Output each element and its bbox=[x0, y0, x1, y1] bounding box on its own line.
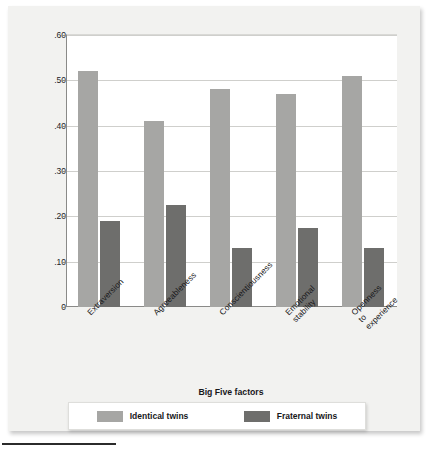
y-axis-tick-label: 0 bbox=[22, 302, 66, 312]
legend-label: Fraternal twins bbox=[277, 411, 337, 421]
y-axis: Correlation of scores 0.10.20.30.40.50.6… bbox=[8, 34, 66, 307]
footer-rule bbox=[2, 443, 116, 445]
y-axis-tick-label: .40 bbox=[22, 121, 66, 131]
y-axis-tick-label: .60 bbox=[22, 30, 66, 40]
bar-extraversion-identical-twins bbox=[78, 71, 98, 307]
bar-agreeableness-identical-twins bbox=[144, 121, 164, 307]
legend-item: Fraternal twins bbox=[244, 411, 337, 422]
legend-swatch bbox=[244, 411, 270, 422]
bar-emotional-stability-identical-twins bbox=[276, 94, 296, 307]
y-axis-tick-label: .20 bbox=[22, 211, 66, 221]
legend-swatch bbox=[97, 411, 123, 422]
y-axis-tick-label: .30 bbox=[22, 166, 66, 176]
y-axis-tick-label: .10 bbox=[22, 257, 66, 267]
chart-legend: Identical twinsFraternal twins bbox=[68, 402, 366, 430]
legend-label: Identical twins bbox=[130, 411, 189, 421]
y-axis-tick-label: .50 bbox=[22, 75, 66, 85]
legend-item: Identical twins bbox=[97, 411, 189, 422]
plot-area bbox=[66, 34, 397, 307]
bar-conscientiousness-identical-twins bbox=[210, 89, 230, 307]
figure-panel: Correlation of scores 0.10.20.30.40.50.6… bbox=[8, 6, 420, 431]
gridline bbox=[67, 35, 397, 36]
x-axis-tick-labels: ExtraversionAgreeablenessConscientiousne… bbox=[66, 308, 396, 394]
bar-openness-to-experience-identical-twins bbox=[342, 76, 362, 307]
x-axis-title: Big Five factors bbox=[66, 387, 396, 397]
